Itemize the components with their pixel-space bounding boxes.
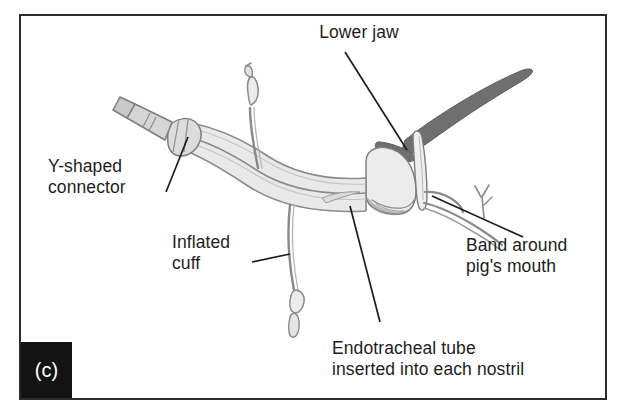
y-connector-barrel (127, 104, 172, 140)
label-inflated-cuff: Inflated cuff (172, 232, 282, 274)
label-band-around-pigs-mouth: Band around pig's mouth (466, 235, 606, 277)
label-y-shaped-connector: Y-shaped connector (48, 156, 198, 198)
label-lower-jaw: Lower jaw (284, 22, 434, 43)
figure-panel-c: Lower jaw Y-shaped connector Inflated cu… (0, 0, 624, 417)
leader-line-endotracheal-tube (350, 206, 380, 322)
inflated-cuff-line-inner (293, 205, 298, 290)
second-pilot-valve (245, 66, 253, 77)
panel-letter: (c) (21, 342, 72, 398)
second-pilot-balloon (248, 77, 259, 105)
pilot-balloon (290, 290, 304, 313)
leader-line-lower-jaw (345, 52, 407, 150)
inflation-valve (289, 313, 300, 337)
label-endotracheal-tube: Endotracheal tube inserted into each nos… (332, 338, 602, 380)
whisker-marks (475, 185, 492, 218)
